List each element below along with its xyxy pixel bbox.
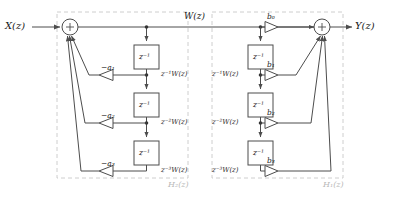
delay-right-2 xyxy=(248,93,273,117)
gain-b3-triangle xyxy=(265,166,278,177)
delay-right-3 xyxy=(248,141,273,165)
left-tap-node-0 xyxy=(145,25,149,29)
block-diagram-svg xyxy=(0,0,394,204)
output-adder xyxy=(314,19,330,35)
feedforward-path-3 xyxy=(278,36,331,171)
input-adder xyxy=(62,19,78,35)
gain-a3-triangle xyxy=(99,166,113,177)
delay-right-1 xyxy=(248,45,273,69)
gain-a2-triangle xyxy=(99,118,113,129)
gain-b2-triangle xyxy=(265,118,278,129)
feedback-path-2 xyxy=(70,36,100,123)
feedforward-path-2 xyxy=(278,36,323,123)
feedforward-path-1 xyxy=(278,36,321,75)
delay-left-1 xyxy=(134,45,159,69)
figure-canvas: X(z) Y(z) W(z) z⁻¹ z⁻¹ z⁻¹ z⁻¹ z⁻¹ z⁻¹ z… xyxy=(0,0,394,204)
feedback-path-3 xyxy=(68,36,100,171)
gain-a1-triangle xyxy=(99,70,113,81)
gain-b0-triangle xyxy=(265,22,278,33)
feedforward-section-box xyxy=(212,12,343,178)
delay-left-2 xyxy=(134,93,159,117)
gain-b1-triangle xyxy=(265,70,278,81)
delay-left-3 xyxy=(134,141,159,165)
feedback-section-box xyxy=(57,12,188,178)
